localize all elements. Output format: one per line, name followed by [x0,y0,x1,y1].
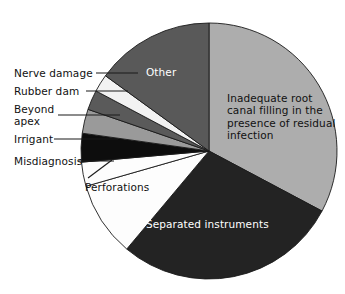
slice-label-separated-instruments: Separated instruments [146,218,269,230]
slice-label-irrigant: Irrigant [14,133,53,145]
pie-slices-group [81,23,337,279]
slice-label-inadequate-root-canal-filling: Inadequate root canal filling in the pre… [227,92,335,142]
slice-label-nerve-damage: Nerve damage [14,67,93,79]
slice-label-perforations: Perforations [85,181,149,193]
slice-label-misdiagnosis: Misdiagnosis [14,155,82,167]
slice-label-rubber-dam: Rubber dam [14,85,79,97]
pie-chart-canvas [0,0,345,294]
slice-label-other: Other [146,66,176,78]
pie-chart: Nerve damage Rubber dam Beyond apex Irri… [0,0,345,294]
slice-label-beyond-apex: Beyond apex [14,103,54,127]
